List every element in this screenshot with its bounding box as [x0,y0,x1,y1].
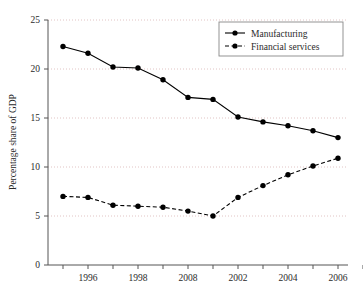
data-point-manufacturing-1 [85,51,90,56]
chart-figure: 0510152025 199619982008200220042006 Perc… [0,0,363,298]
data-point-financial-services-8 [260,183,265,188]
data-point-manufacturing-6 [210,97,215,102]
legend-label-manufacturing: Manufacturing [251,29,308,39]
y-tick-label-25: 25 [31,15,41,25]
data-point-manufacturing-7 [235,114,240,119]
y-axis-title: Percentage share of GDP [8,94,18,190]
axes-group [48,20,348,265]
x-tick-labels-group: 199619982008200220042006 [79,273,348,283]
data-point-financial-services-9 [285,172,290,177]
data-point-manufacturing-5 [185,95,190,100]
series-line-manufacturing [63,47,338,138]
x-tick-label-1998: 1998 [129,273,148,283]
data-point-financial-services-7 [235,195,240,200]
data-point-manufacturing-0 [60,44,65,49]
data-point-manufacturing-2 [110,64,115,69]
data-point-manufacturing-9 [285,123,290,128]
series-line-financial-services [63,158,338,216]
data-point-manufacturing-3 [135,65,140,70]
data-point-financial-services-10 [310,163,315,168]
y-tick-label-5: 5 [35,211,40,221]
x-ticks-group [63,265,363,269]
y-tick-label-15: 15 [31,113,41,123]
data-point-financial-services-11 [335,156,340,161]
legend-swatch-marker-financial-services [232,43,237,48]
y-ticks-group [44,20,48,265]
data-point-financial-services-3 [135,204,140,209]
chart-legend: Manufacturing Financial services [219,22,343,56]
data-point-financial-services-4 [160,205,165,210]
y-tick-label-10: 10 [31,162,41,172]
data-point-financial-services-5 [185,208,190,213]
x-tick-label-2004: 2004 [279,273,298,283]
legend-swatch-marker-manufacturing [232,30,237,35]
legend-label-financial-services: Financial services [251,42,320,52]
x-tick-label-2006: 2006 [329,273,348,283]
data-point-financial-services-0 [60,194,65,199]
data-point-financial-services-2 [110,203,115,208]
data-point-manufacturing-8 [260,119,265,124]
x-tick-label-1996: 1996 [79,273,98,283]
y-tick-labels-group: 0510152025 [31,15,41,270]
series-group [60,44,340,219]
data-point-financial-services-1 [85,195,90,200]
data-point-manufacturing-4 [160,77,165,82]
line-chart: 0510152025 199619982008200220042006 Perc… [0,0,363,298]
y-tick-label-20: 20 [31,64,41,74]
data-point-manufacturing-11 [335,135,340,140]
data-point-manufacturing-10 [310,128,315,133]
y-tick-label-0: 0 [35,260,40,270]
data-point-financial-services-6 [210,213,215,218]
x-tick-label-2008: 2008 [179,273,198,283]
x-tick-label-2002: 2002 [229,273,248,283]
